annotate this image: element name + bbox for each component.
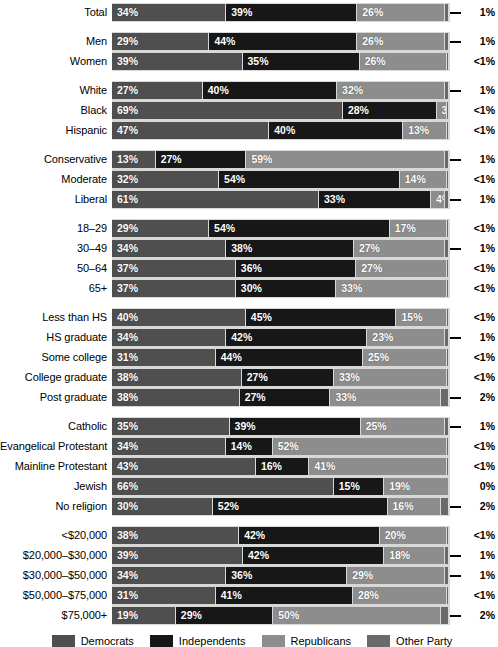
row-label: Catholic bbox=[0, 417, 107, 436]
segment-value-label: 41% bbox=[216, 587, 242, 604]
bar-segment-rep: 15% bbox=[396, 309, 446, 326]
row-label: HS graduate bbox=[0, 328, 107, 347]
legend-label: Democrats bbox=[81, 635, 134, 647]
bar-segment-rep: 27% bbox=[354, 240, 445, 257]
bar-segment-rep: 4% bbox=[431, 191, 445, 208]
row-label: Less than HS bbox=[0, 308, 107, 327]
bar-segment-ind: 42% bbox=[226, 329, 367, 346]
segment-value-label: 38% bbox=[112, 527, 138, 544]
stacked-bar: 27%40%32% bbox=[112, 82, 448, 99]
segment-value-label: 27% bbox=[242, 369, 268, 386]
bar-segment-ind: 27% bbox=[240, 389, 331, 406]
legend-swatch bbox=[367, 635, 390, 647]
segment-value-label: 35% bbox=[112, 418, 138, 435]
bar-segment-dem: 13% bbox=[112, 151, 156, 168]
row-label: 65+ bbox=[0, 279, 107, 298]
segment-value-label: 39% bbox=[230, 418, 256, 435]
stacked-bar: 34%42%23% bbox=[112, 329, 448, 346]
stacked-bar: 38%42%20% bbox=[112, 527, 448, 544]
bar-segment-ind: 36% bbox=[236, 260, 356, 277]
chart-row: Men29%44%26%1% bbox=[0, 32, 498, 51]
segment-value-label: 30% bbox=[112, 498, 138, 515]
other-party-callout: 2% bbox=[448, 606, 498, 625]
chart-group-age: 18–2929%54%17%<1%30–4934%38%27%1%50–6437… bbox=[0, 219, 498, 298]
other-party-value-label: <1% bbox=[474, 279, 495, 298]
chart-row: Catholic35%39%25%1% bbox=[0, 417, 498, 436]
bar-segment-dem: 37% bbox=[112, 280, 236, 297]
bar-segment-ind: 41% bbox=[216, 587, 353, 604]
segment-value-label: 13% bbox=[112, 151, 138, 168]
segment-value-label: 41% bbox=[309, 458, 335, 475]
other-party-callout: <1% bbox=[448, 457, 498, 476]
chart-row: No religion30%52%16%2% bbox=[0, 497, 498, 516]
chart-group-overall: Total34%39%26%1% bbox=[0, 3, 498, 22]
other-party-callout: <1% bbox=[448, 219, 498, 238]
other-party-value-label: <1% bbox=[474, 368, 495, 387]
segment-value-label: 33% bbox=[330, 389, 356, 406]
bar-segment-dem: 34% bbox=[112, 4, 226, 21]
chart-row: Less than HS40%45%15%<1% bbox=[0, 308, 498, 327]
segment-value-label: 31% bbox=[112, 587, 138, 604]
segment-value-label: 37% bbox=[112, 260, 138, 277]
bar-segment-rep: 25% bbox=[361, 418, 445, 435]
chart-row: Liberal61%33%4%1% bbox=[0, 190, 498, 209]
chart-group-income: <$20,00038%42%20%<1%$20,000–$30,00039%42… bbox=[0, 526, 498, 625]
chart-group-education: Less than HS40%45%15%<1%HS graduate34%42… bbox=[0, 308, 498, 407]
stacked-bar: 38%27%33% bbox=[112, 389, 448, 406]
chart-row: Women39%35%26%<1% bbox=[0, 52, 498, 71]
other-party-callout: <1% bbox=[448, 368, 498, 387]
bar-segment-ind: 27% bbox=[156, 151, 247, 168]
other-party-value-label: <1% bbox=[474, 437, 495, 456]
bar-segment-rep: 50% bbox=[273, 607, 441, 624]
segment-value-label: 26% bbox=[357, 4, 383, 21]
chart-row: HS graduate34%42%23%1% bbox=[0, 328, 498, 347]
leader-line bbox=[450, 397, 461, 399]
segment-value-label: 36% bbox=[226, 567, 252, 584]
segment-value-label: 30% bbox=[236, 280, 262, 297]
segment-value-label: 34% bbox=[112, 438, 138, 455]
bar-segment-dem: 61% bbox=[112, 191, 319, 208]
stacked-bar: 29%44%26% bbox=[112, 33, 448, 50]
stacked-bar: 29%54%17% bbox=[112, 220, 448, 237]
segment-value-label: 33% bbox=[336, 280, 362, 297]
segment-value-label: 25% bbox=[361, 418, 387, 435]
other-party-callout: <1% bbox=[448, 348, 498, 367]
bar-segment-ind: 42% bbox=[239, 527, 380, 544]
bar-segment-ind: 40% bbox=[203, 82, 337, 99]
segment-value-label: 40% bbox=[203, 82, 229, 99]
row-label: 30–49 bbox=[0, 239, 107, 258]
bar-segment-ind: 38% bbox=[226, 240, 354, 257]
stacked-bar: 31%41%28% bbox=[112, 587, 448, 604]
segment-value-label: 26% bbox=[360, 53, 386, 70]
leader-line bbox=[450, 90, 461, 92]
segment-value-label: 42% bbox=[239, 527, 265, 544]
segment-value-label: 34% bbox=[112, 567, 138, 584]
segment-value-label: 15% bbox=[334, 478, 360, 495]
segment-value-label: 29% bbox=[112, 33, 138, 50]
other-party-callout: 1% bbox=[448, 239, 498, 258]
stacked-bar: 34%39%26% bbox=[112, 4, 448, 21]
segment-value-label: 32% bbox=[112, 171, 138, 188]
row-label: $30,000–$50,000 bbox=[0, 566, 107, 585]
other-party-value-label: 2% bbox=[480, 497, 495, 516]
bar-segment-ind: 27% bbox=[242, 369, 334, 386]
bar-segment-rep: 41% bbox=[309, 458, 446, 475]
other-party-value-label: 1% bbox=[480, 81, 495, 100]
segment-value-label: 52% bbox=[273, 438, 299, 455]
bar-segment-dem: 30% bbox=[112, 498, 213, 515]
leader-line bbox=[450, 337, 461, 339]
leader-line bbox=[450, 199, 461, 201]
other-party-value-label: 2% bbox=[480, 606, 495, 625]
other-party-callout: 1% bbox=[448, 150, 498, 169]
row-label: College graduate bbox=[0, 368, 107, 387]
other-party-value-label: 1% bbox=[480, 3, 495, 22]
chart-group-gender: Men29%44%26%1%Women39%35%26%<1% bbox=[0, 32, 498, 71]
row-label: <$20,000 bbox=[0, 526, 107, 545]
segment-value-label: 23% bbox=[367, 329, 393, 346]
other-party-value-label: <1% bbox=[474, 308, 495, 327]
segment-value-label: 19% bbox=[384, 478, 410, 495]
other-party-value-label: 1% bbox=[480, 566, 495, 585]
stacked-bar: 39%35%26% bbox=[112, 53, 448, 70]
other-party-callout: 1% bbox=[448, 81, 498, 100]
other-party-callout: 1% bbox=[448, 546, 498, 565]
